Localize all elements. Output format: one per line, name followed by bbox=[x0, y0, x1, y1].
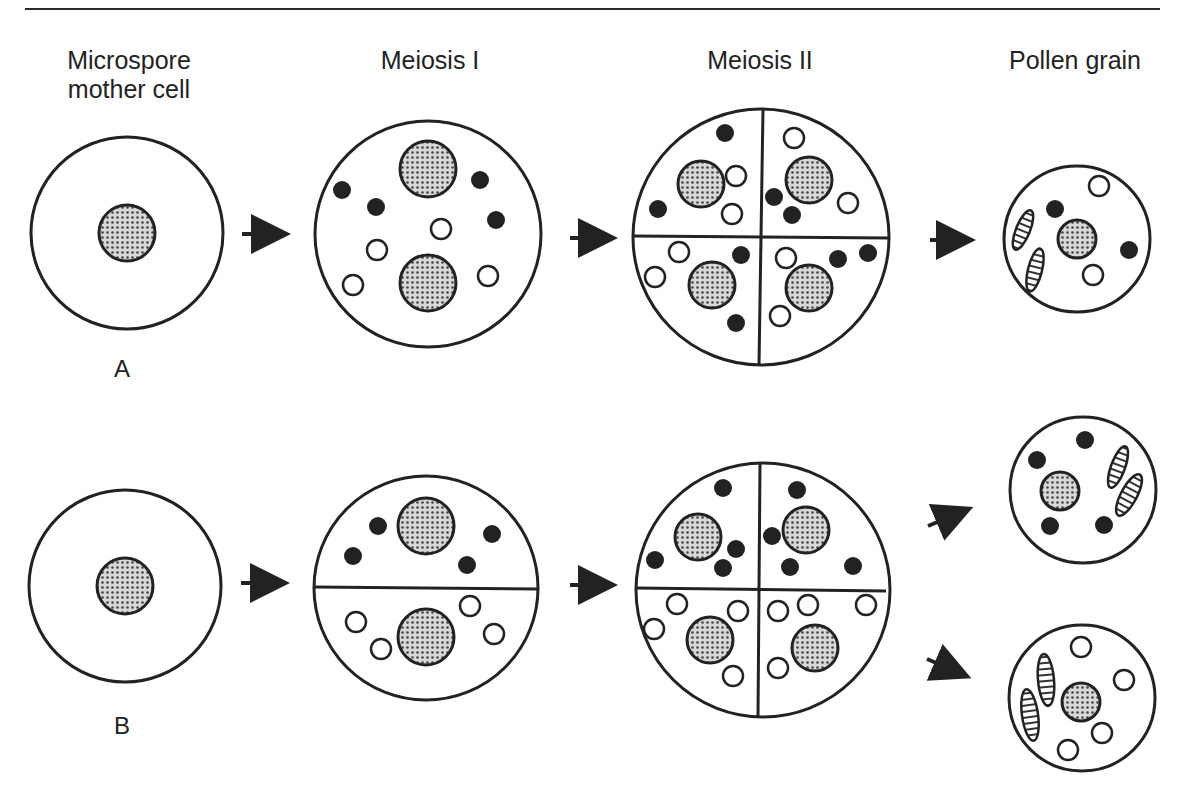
row-b bbox=[29, 417, 1156, 771]
arrow-icon bbox=[928, 510, 966, 526]
meiosis-1-cell-b bbox=[314, 476, 538, 700]
arrow-icon bbox=[927, 659, 964, 675]
pollen-grain-b-upper bbox=[1010, 417, 1156, 563]
pollen-grain-b-lower bbox=[1009, 625, 1155, 771]
mother-cell-b bbox=[29, 490, 221, 682]
mother-cell-a bbox=[31, 137, 223, 329]
meiosis-2-cell-a bbox=[633, 109, 889, 365]
meiosis-2-cell-b bbox=[636, 463, 890, 717]
meiosis-1-cell-a bbox=[315, 121, 541, 347]
nucleus-icon bbox=[99, 205, 155, 261]
meiosis-diagram bbox=[0, 0, 1194, 796]
row-a bbox=[31, 109, 1150, 365]
pollen-grain-a bbox=[1004, 166, 1150, 312]
